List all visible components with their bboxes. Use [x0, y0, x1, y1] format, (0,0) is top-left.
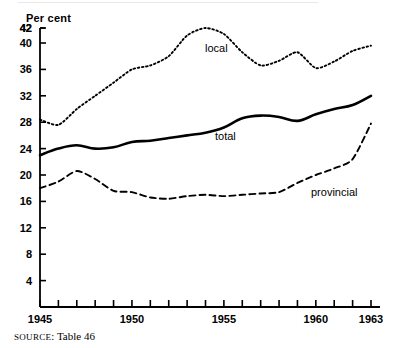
series-label-provincial: provincial	[311, 186, 357, 198]
chart-figure: Per cent 4240363228242016128442 19451950…	[0, 0, 406, 348]
tick-marks	[40, 28, 371, 307]
series-line-total	[40, 96, 371, 155]
source-text: : Table 46	[51, 330, 95, 342]
plot-area	[0, 0, 406, 348]
source-prefix: SOURCE	[14, 332, 51, 342]
axis-lines	[40, 28, 380, 307]
series-label-local: local	[205, 42, 228, 54]
series-label-total: total	[215, 130, 236, 142]
source-note: SOURCE: Table 46	[14, 330, 95, 342]
